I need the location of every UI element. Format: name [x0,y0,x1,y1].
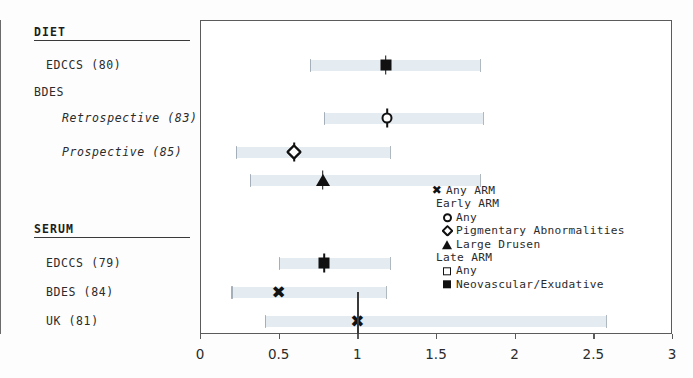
legend-label: Any [456,211,477,224]
forest-plot-figure: DIETEDCCS (80)BDESRetrospective (83)Pros… [0,0,693,378]
confidence-interval-cap [390,146,391,159]
confidence-interval-cap [279,257,280,270]
legend-x-icon: ✖ [432,186,442,195]
confidence-interval-cap [310,59,311,72]
x-axis-tick-label: 2.5 [583,346,604,362]
legend-marker [440,264,454,277]
reference-line [0,20,1,334]
confidence-interval-cap [250,174,251,187]
legend-marker [440,278,454,291]
marker-square-filled-icon [319,258,330,269]
confidence-interval-cap [231,286,232,299]
row-label: Prospective (85) [62,145,182,159]
legend-label: Any [456,264,477,277]
confidence-interval-cap [606,315,607,328]
marker-square-filled-icon [380,60,391,71]
row-label: BDES [34,85,64,99]
section-rule-diet [34,40,190,41]
section-rule-serum [34,237,190,238]
confidence-interval-band [236,147,390,158]
marker-triangle-filled-icon [316,174,330,186]
row-label: EDCCS (79) [46,256,121,270]
legend-circle-open-icon [443,213,452,222]
legend-square-open-icon [443,267,451,275]
row-label: Retrospective (83) [62,111,197,125]
legend-label: Pigmentary Abnormalities [456,224,625,237]
legend-square-filled-icon [443,281,451,289]
x-axis-tick-label: 1.5 [425,346,446,362]
x-axis-tick [357,334,358,339]
confidence-interval-band [310,60,480,71]
legend-marker: ✖ [430,184,444,197]
marker-x-icon: ✖ [272,284,286,301]
row-label: EDCCS (80) [46,58,121,72]
row-label: BDES (84) [46,285,114,299]
confidence-interval-cap [390,257,391,270]
marker-circle-open-icon [382,113,393,124]
marker-diamond-open-icon [287,145,302,160]
legend-marker [440,211,454,224]
x-axis-tick [436,334,437,339]
confidence-interval-band [324,113,483,124]
legend-triangle-icon [442,240,452,249]
confidence-interval-band [231,287,385,298]
x-axis-tick-label: 3 [668,346,677,362]
confidence-interval-cap [483,112,484,125]
legend-diamond-open-icon [442,226,453,237]
x-axis-tick [279,334,280,339]
row-label: UK (81) [46,314,99,328]
legend-marker [440,238,454,251]
confidence-interval-band [279,258,391,269]
x-axis-tick [593,334,594,339]
x-axis-tick [200,334,201,339]
confidence-interval-cap [265,315,266,328]
section-header-serum: SERUM [34,222,74,236]
legend-label: Any ARM [446,184,495,197]
legend-label: Early ARM [436,197,499,210]
confidence-interval-cap [386,286,387,299]
x-axis-tick [672,334,673,339]
x-axis-tick [515,334,516,339]
confidence-interval-cap [236,146,237,159]
legend-label: Late ARM [436,251,492,264]
confidence-interval-cap [324,112,325,125]
confidence-interval-band [265,316,606,327]
legend-label: Neovascular/Exudative [456,278,604,291]
x-axis-tick-label: 0 [196,346,205,362]
legend-marker [440,224,454,237]
section-header-diet: DIET [34,25,66,39]
x-axis-tick-label: 1 [353,346,362,362]
confidence-interval-cap [480,59,481,72]
reference-connector [357,292,358,334]
legend-label: Large Drusen [456,238,540,251]
x-axis-tick-label: 0.5 [268,346,289,362]
x-axis-tick-label: 2 [510,346,519,362]
